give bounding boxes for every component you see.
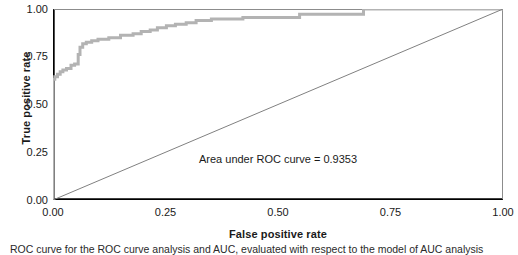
- plot-area: [53, 9, 503, 200]
- figure-caption: ROC curve for the ROC curve analysis and…: [10, 243, 518, 255]
- y-tick-label-1: 0.25: [4, 147, 48, 158]
- x-tick-label-2: 0.50: [248, 207, 308, 218]
- plot-svg: [53, 9, 503, 200]
- x-axis-title: False positive rate: [53, 228, 503, 240]
- x-tick-label-0: 0.00: [23, 207, 83, 218]
- x-tick-label-3: 0.75: [361, 207, 421, 218]
- y-tick-label-3: 0.75: [4, 51, 48, 62]
- x-tick-label-1: 0.25: [136, 207, 196, 218]
- y-tick-label-0: 0.00: [4, 195, 48, 206]
- y-tick-label-2: 0.50: [4, 99, 48, 110]
- y-tick-label-4: 1.00: [4, 4, 48, 15]
- x-axis-tick-labels: 0.000.250.500.751.00: [0, 207, 518, 223]
- auc-annotation: Area under ROC curve = 0.9353: [53, 153, 503, 165]
- x-tick-label-4: 1.00: [473, 207, 518, 218]
